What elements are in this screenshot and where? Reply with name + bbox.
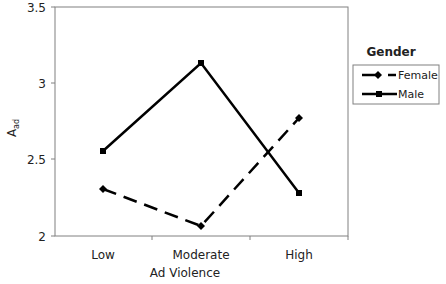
chart: 3.5 3 2.5 2 Aad Low Moderate High Ad Vio… — [0, 0, 446, 284]
y-tick-label: 3.5 — [27, 1, 46, 15]
y-tick-label: 3 — [38, 77, 46, 91]
legend-title: Gender — [366, 45, 415, 59]
square-marker — [296, 190, 302, 196]
svg-text:Female: Female — [398, 69, 438, 82]
plot-area — [55, 7, 348, 236]
square-marker — [198, 60, 204, 66]
diamond-marker — [99, 185, 107, 193]
legend-item-male: Male — [362, 88, 424, 101]
x-axis-title: Ad Violence — [150, 266, 220, 280]
y-tick-label: 2.5 — [27, 153, 46, 167]
series-female — [99, 114, 303, 230]
y-axis-title: Aad — [5, 119, 21, 137]
x-tick-label: Low — [91, 248, 115, 262]
diamond-marker — [197, 222, 205, 230]
x-tick-label: Moderate — [172, 248, 229, 262]
x-axis: Low Moderate High Ad Violence — [91, 236, 348, 280]
square-marker — [100, 148, 106, 154]
y-axis: 3.5 3 2.5 2 — [27, 1, 55, 244]
svg-text:Aad: Aad — [5, 119, 21, 137]
svg-text:Male: Male — [398, 88, 424, 101]
legend: Gender Female Male — [353, 45, 439, 104]
x-tick-label: High — [285, 248, 313, 262]
legend-item-female: Female — [362, 69, 438, 82]
y-tick-label: 2 — [38, 230, 46, 244]
series-male — [100, 60, 302, 196]
